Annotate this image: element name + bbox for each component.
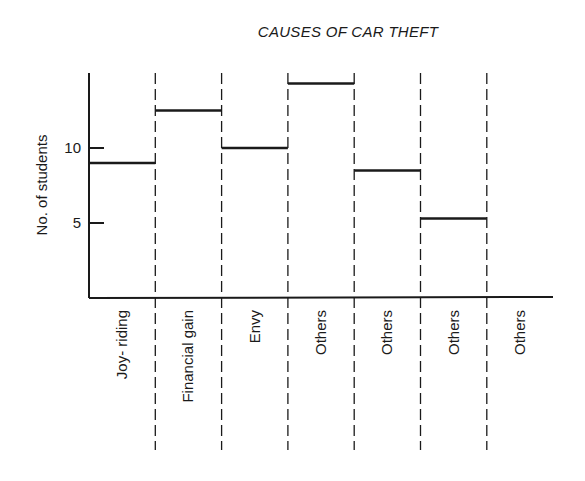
bar-levels bbox=[89, 84, 487, 219]
bar-chart: CAUSES OF CAR THEFT No. of students 510 … bbox=[0, 0, 585, 481]
y-tick-label: 5 bbox=[73, 214, 81, 231]
category-label: Others bbox=[312, 310, 329, 355]
category-label: Financial gain bbox=[179, 310, 196, 403]
y-axis-ticks: 510 bbox=[64, 139, 104, 231]
category-label: Others bbox=[445, 310, 462, 355]
category-label: Others bbox=[511, 310, 528, 355]
category-labels: Joy- ridingFinancial gainEnvyOthersOther… bbox=[113, 310, 528, 403]
category-label: Joy- riding bbox=[113, 310, 130, 379]
category-label: Others bbox=[378, 310, 395, 355]
category-label: Envy bbox=[246, 310, 263, 344]
y-axis-label: No. of students bbox=[33, 135, 50, 236]
chart-title: CAUSES OF CAR THEFT bbox=[258, 23, 440, 40]
x-axis bbox=[89, 297, 553, 298]
category-dividers bbox=[155, 73, 487, 450]
y-tick-label: 10 bbox=[64, 139, 81, 156]
